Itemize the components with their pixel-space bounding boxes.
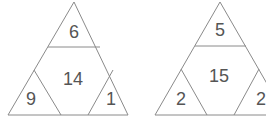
triangle-2: 5 15 2 2 xyxy=(155,2,266,115)
triangle-1-center-number: 14 xyxy=(63,69,83,89)
triangle-1-left-divider xyxy=(34,70,61,115)
triangle-2-left-number: 2 xyxy=(176,89,186,109)
triangle-1: 6 14 9 1 xyxy=(8,2,128,115)
puzzle-diagram: 6 14 9 1 5 15 2 2 xyxy=(0,0,266,121)
triangle-2-center-number: 15 xyxy=(209,66,229,86)
triangle-2-outline xyxy=(155,2,266,115)
triangle-2-right-number: 2 xyxy=(256,89,266,109)
triangle-2-top-number: 5 xyxy=(215,20,225,40)
triangle-1-top-number: 6 xyxy=(69,22,79,42)
triangle-1-left-number: 9 xyxy=(26,89,36,109)
triangle-1-right-number: 1 xyxy=(106,89,116,109)
